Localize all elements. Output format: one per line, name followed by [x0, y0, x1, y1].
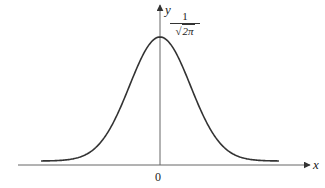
sqrt-symbol: √ — [175, 25, 181, 37]
x-axis-label: x — [313, 157, 319, 173]
sqrt-radicand: 2π — [182, 24, 195, 37]
origin-tick-label: 0 — [155, 170, 161, 185]
peak-numerator: 1 — [170, 10, 200, 22]
normal-curve-chart — [0, 0, 325, 188]
peak-value-label: 1 √2π — [170, 10, 200, 38]
peak-denominator: √2π — [170, 25, 200, 38]
